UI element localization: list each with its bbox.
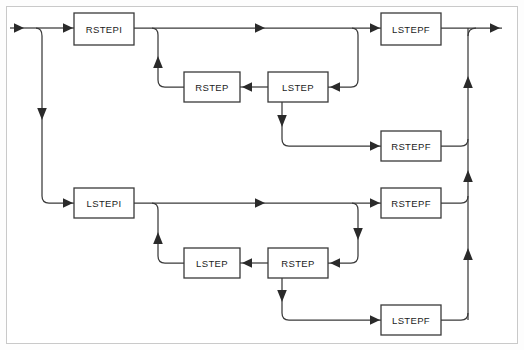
node-rstepi[interactable]: RSTEPI (74, 13, 134, 45)
node-lstep-bot[interactable]: LSTEP (184, 248, 240, 278)
node-rstepf-upper-label: RSTEPF (391, 141, 431, 152)
node-lstepf-bot-label: LSTEPF (392, 315, 430, 326)
node-lstep-top-label: LSTEP (282, 82, 314, 93)
node-lstepi[interactable]: LSTEPI (74, 188, 134, 218)
node-rstep-top[interactable]: RSTEP (184, 72, 240, 102)
node-lstepf-bot[interactable]: LSTEPF (381, 305, 441, 335)
diagram-canvas: RSTEPI RSTEP LSTEP LSTEPF RSTEPF LSTEPI (0, 0, 524, 350)
node-rstep-bot[interactable]: RSTEP (268, 248, 328, 278)
node-lstep-top[interactable]: LSTEP (268, 72, 328, 102)
node-rstepf-lower-label: RSTEPF (391, 198, 431, 209)
flowchart-svg: RSTEPI RSTEP LSTEP LSTEPF RSTEPF LSTEPI (0, 0, 524, 350)
node-lstepf-top-label: LSTEPF (392, 24, 430, 35)
diagram-frame (7, 7, 518, 344)
node-lstepi-label: LSTEPI (87, 198, 122, 209)
node-rstep-bot-label: RSTEP (281, 258, 314, 269)
node-rstepf-upper[interactable]: RSTEPF (381, 131, 441, 161)
node-rstep-top-label: RSTEP (195, 82, 228, 93)
node-rstepi-label: RSTEPI (86, 24, 122, 35)
node-lstep-bot-label: LSTEP (196, 258, 228, 269)
node-rstepf-lower[interactable]: RSTEPF (381, 188, 441, 218)
node-lstepf-top[interactable]: LSTEPF (381, 13, 441, 45)
